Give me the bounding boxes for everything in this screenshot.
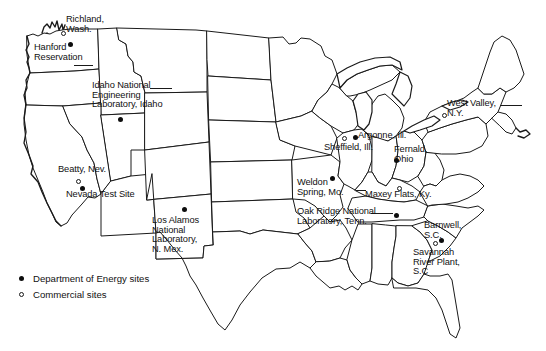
label-barnwell: Barnwell, S.C. (424, 221, 461, 240)
marker-barnwell[interactable] (433, 241, 438, 246)
leader-line-hanford (74, 65, 93, 66)
label-nevada-test-site: Nevada Test Site (66, 190, 135, 200)
us-nuclear-sites-map: Richland, Wash. Hanford Reservation Idah… (0, 0, 546, 351)
leader-line-west-valley (500, 105, 522, 106)
label-argonne: Argonne, Ill. (358, 131, 406, 141)
legend-item-commercial: Commercial sites (14, 286, 149, 302)
label-richland: Richland, Wash. (66, 15, 104, 34)
legend-filled-dot-icon (14, 276, 28, 281)
caption-strip (0, 344, 546, 351)
legend-item-doe: Department of Energy sites (14, 270, 149, 286)
marker-sheffield[interactable] (342, 136, 347, 141)
marker-los-alamos[interactable] (182, 207, 187, 212)
label-maxey-flats: Maxey Flats, Ky. (365, 190, 431, 200)
label-hanford: Hanford Reservation (34, 43, 83, 62)
legend-open-circle-icon (14, 292, 28, 297)
label-oak-ridge: Oak Ridge National Laboratory, Tenn. (297, 207, 376, 226)
legend-label-doe: Department of Energy sites (28, 273, 149, 284)
marker-beatty[interactable] (76, 179, 81, 184)
legend-label-commercial: Commercial sites (28, 289, 107, 300)
state-north-dakota (207, 31, 271, 80)
map-legend: Department of Energy sites Commercial si… (14, 270, 149, 302)
state-colorado (145, 142, 211, 200)
marker-oak-ridge[interactable] (394, 213, 399, 218)
label-savannah-river-plant: Savannah River Plant, S.C (413, 248, 460, 277)
label-west-valley: West Valley, N.Y. (447, 99, 496, 118)
label-beatty: Beatty, Nev. (58, 165, 106, 175)
state-oregon (25, 69, 101, 106)
state-south-dakota (208, 76, 276, 122)
marker-idaho-national-engineering-laboratory[interactable] (118, 117, 123, 122)
label-weldon-spring: Weldon Spring, Mo. (297, 178, 343, 197)
label-fernald: Fernald, Ohio (394, 145, 427, 164)
label-los-alamos: Los Alamos National Laboratory, N. Mex. (152, 216, 199, 254)
state-new-england (478, 36, 524, 94)
state-oklahoma (212, 199, 310, 234)
state-kansas (211, 160, 293, 202)
east-coast-detail (516, 128, 530, 138)
label-idaho-national-engineering-laboratory: Idaho National Engineering Laboratory, I… (92, 81, 163, 110)
label-sheffield: Sheffield, Ill. (324, 143, 373, 153)
